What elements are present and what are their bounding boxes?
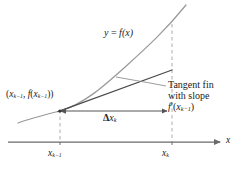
point-label-inner-subscript: k−1 xyxy=(38,93,48,99)
slope-subscript: k−1 xyxy=(181,106,191,113)
annotation-line-2: with slope xyxy=(168,90,214,101)
slope-paren-close: ) xyxy=(191,101,194,112)
point-coordinate-label: (xk−1, f(xk−1)) xyxy=(6,89,54,100)
tick-right-subscript: k xyxy=(166,152,169,158)
tangent-annotation: Tangent fin with slope f′(xk−1) xyxy=(168,79,214,114)
curve-equation-label: y = f(x) xyxy=(104,27,133,38)
point-label-x-subscript: k−1 xyxy=(13,93,23,99)
tangency-point-marker xyxy=(58,109,61,112)
annotation-line-1: Tangent fin xyxy=(168,79,214,90)
function-curve xyxy=(18,5,186,123)
delta-label-subscript: k xyxy=(114,116,117,123)
annotation-line-3: f′(xk−1) xyxy=(168,101,214,113)
point-label-close: )) xyxy=(47,89,53,99)
x-axis-label: x xyxy=(226,135,230,146)
figure-container: (xk−1, f(xk−1)) y = f(x) Δxk Tangent fin… xyxy=(0,0,236,170)
tick-left-subscript: k−1 xyxy=(52,152,62,158)
x-axis-tick-label-right: xk xyxy=(162,148,169,159)
delta-x-label: Δxk xyxy=(103,112,116,124)
curve-label-arg: (x) xyxy=(122,27,133,38)
x-axis-tick-label-left: xk−1 xyxy=(48,148,62,159)
curve-label-equals: = xyxy=(108,27,119,38)
annotation-leader-line xyxy=(116,77,166,86)
